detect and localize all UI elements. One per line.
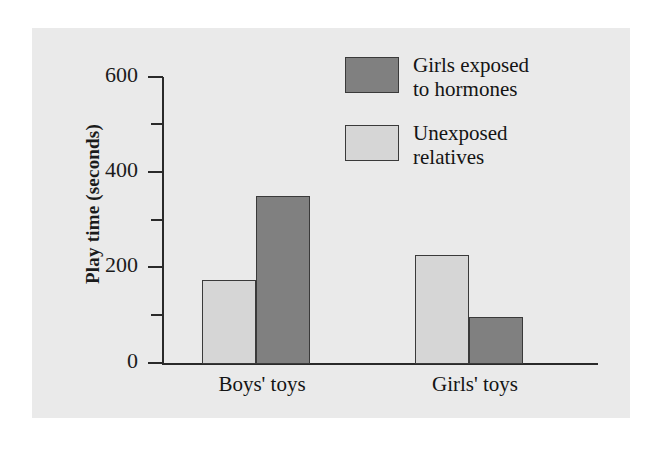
legend-label-unexposed-relatives: Unexposed relatives (413, 122, 507, 170)
legend-swatch-light (345, 125, 399, 161)
bar-girls-toys-unexposed-relatives[interactable] (415, 255, 469, 364)
bar-girls-toys-girls-exposed-to-hormones[interactable] (469, 317, 523, 364)
y-tick-200 (148, 266, 163, 268)
y-tick-600 (148, 76, 163, 78)
y-tick-label-0: 0 (48, 350, 138, 372)
legend-swatch-dark (345, 57, 399, 93)
y-tick-minor-300 (151, 219, 163, 221)
legend: Girls exposed to hormones Unexposed rela… (345, 54, 529, 190)
y-tick-label-200: 200 (48, 254, 138, 276)
y-tick-label-400: 400 (48, 159, 138, 181)
y-tick-minor-500 (151, 123, 163, 125)
figure-panel: Play time (seconds) 0 200 400 600 Boys' … (32, 28, 630, 418)
bar-boys-toys-girls-exposed-to-hormones[interactable] (256, 196, 310, 364)
x-axis-label-boys-toys: Boys' toys (182, 372, 342, 397)
legend-item-unexposed-relatives[interactable]: Unexposed relatives (345, 122, 529, 170)
y-tick-label-600: 600 (48, 64, 138, 86)
legend-label-girls-exposed-to-hormones: Girls exposed to hormones (413, 54, 529, 102)
y-tick-400 (148, 171, 163, 173)
y-tick-0 (148, 362, 163, 364)
plot-area: 0 200 400 600 Boys' toys Girls' toys Gir… (32, 28, 630, 418)
y-tick-minor-100 (151, 314, 163, 316)
legend-item-girls-exposed-to-hormones[interactable]: Girls exposed to hormones (345, 54, 529, 102)
bar-boys-toys-unexposed-relatives[interactable] (202, 280, 256, 364)
y-axis-line (162, 77, 164, 365)
x-axis-label-girls-toys: Girls' toys (395, 372, 555, 397)
